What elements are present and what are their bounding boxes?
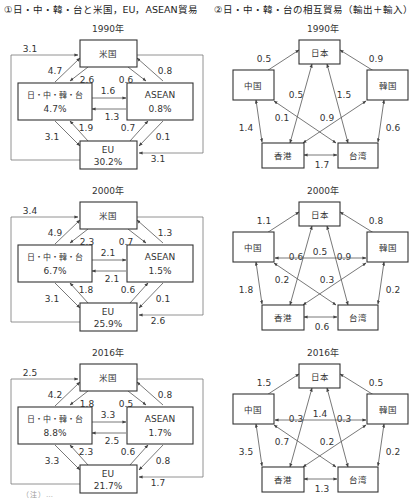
flow-label: 2.1 xyxy=(105,274,119,284)
link-label: 0.6 xyxy=(289,252,304,262)
flow-label: 2.5 xyxy=(23,368,37,378)
link-label: 0.6 xyxy=(315,322,330,332)
link-label: 1.8 xyxy=(239,285,254,295)
link-china-hongkong xyxy=(256,424,262,466)
flow-label: 1.8 xyxy=(79,285,94,295)
node-ejct-box xyxy=(18,407,92,444)
node-label-eu: EU xyxy=(102,145,114,155)
flow-label: 3.1 xyxy=(45,132,59,142)
node-label-japan: 日本 xyxy=(311,372,329,382)
link-korea-hongkong xyxy=(303,425,366,467)
node-label-taiwan: 台湾 xyxy=(349,151,367,161)
flow-label: 4.7 xyxy=(48,66,62,76)
node-label-us: 米国 xyxy=(99,49,117,59)
link-japan-taiwan xyxy=(327,226,348,305)
flow-label: 0.7 xyxy=(121,123,135,133)
link-label: 0.5 xyxy=(289,90,303,100)
node-label-taiwan: 台湾 xyxy=(349,313,367,323)
node-label-ejct: 日・中・韓・台 xyxy=(27,252,83,262)
node-share-asean: 1.5% xyxy=(149,266,172,276)
link-japan-hongkong xyxy=(290,64,312,143)
node-ejct-box xyxy=(18,245,92,282)
node-label-ejct: 日・中・韓・台 xyxy=(27,414,83,424)
node-label-china: 中国 xyxy=(244,243,262,253)
link-label: 0.2 xyxy=(386,285,400,295)
node-label-asean: ASEAN xyxy=(145,414,175,424)
link-korea-hongkong xyxy=(303,101,366,143)
node-label-eu: EU xyxy=(102,469,114,479)
link-china-hongkong xyxy=(256,262,262,304)
node-label-us: 米国 xyxy=(99,211,117,221)
node-label-us: 米国 xyxy=(99,373,117,383)
link-label: 0.2 xyxy=(320,437,334,447)
link-korea-hongkong xyxy=(303,263,366,305)
node-label-china: 中国 xyxy=(244,81,262,91)
flow-label: 4.9 xyxy=(48,228,63,238)
node-label-hongkong: 香港 xyxy=(274,313,292,323)
node-label-ejct: 日・中・韓・台 xyxy=(27,90,83,100)
flow-label: 0.6 xyxy=(121,285,136,295)
link-label: 3.5 xyxy=(239,447,253,457)
link-label: 1.5 xyxy=(337,90,351,100)
link-label: 0.3 xyxy=(337,414,351,424)
flow-label: 3.3 xyxy=(45,456,59,466)
flow-label: 3.3 xyxy=(101,410,115,420)
link-label: 0.3 xyxy=(320,275,334,285)
flow-label: 0.1 xyxy=(156,294,170,304)
link-japan-taiwan xyxy=(327,64,348,143)
node-label-eu: EU xyxy=(102,307,114,317)
flow-label: 0.8 xyxy=(156,456,171,466)
link-label: 0.9 xyxy=(369,54,384,64)
flow-label: 2.6 xyxy=(151,316,166,326)
link-label: 1.4 xyxy=(313,409,328,419)
node-label-japan: 日本 xyxy=(311,210,329,220)
link-label: 0.7 xyxy=(275,437,289,447)
link-label: 0.3 xyxy=(289,414,303,424)
link-label: 0.8 xyxy=(369,216,384,226)
link-korea-taiwan xyxy=(378,100,384,142)
link-label: 1.3 xyxy=(315,484,329,494)
link-korea-taiwan xyxy=(378,262,384,304)
flow-label: 3.1 xyxy=(23,44,37,54)
node-ejct-box xyxy=(18,83,92,120)
link-label: 0.9 xyxy=(320,113,335,123)
node-asean-box xyxy=(127,407,193,444)
link-label: 1.1 xyxy=(257,216,271,226)
flow-label: 0.1 xyxy=(156,132,170,142)
right-panel-year: 2000年 xyxy=(307,185,339,196)
node-label-korea: 韓国 xyxy=(379,243,397,253)
node-asean-box xyxy=(127,245,193,282)
link-label: 0.2 xyxy=(275,275,289,285)
flow-label: 0.6 xyxy=(121,447,136,457)
link-japan-hongkong xyxy=(290,226,312,305)
node-share-eu: 30.2% xyxy=(94,157,123,167)
link-china-hongkong xyxy=(256,100,262,142)
node-share-asean: 1.7% xyxy=(149,428,172,438)
link-japan-taiwan xyxy=(327,388,348,467)
link-label: 1.7 xyxy=(315,160,329,170)
node-label-hongkong: 香港 xyxy=(274,475,292,485)
flow-label: 3.1 xyxy=(151,154,165,164)
link-label: 0.9 xyxy=(337,252,352,262)
node-share-asean: 0.8% xyxy=(149,104,172,114)
node-share-ejct: 8.8% xyxy=(44,428,67,438)
right-panel-year: 1990年 xyxy=(307,23,339,34)
flow-label: 1.9 xyxy=(79,123,94,133)
node-label-taiwan: 台湾 xyxy=(349,475,367,485)
left-panel-year: 2016年 xyxy=(92,347,124,358)
link-label: 1.4 xyxy=(239,123,254,133)
node-asean-box xyxy=(127,83,193,120)
link-label: 0.5 xyxy=(313,247,327,257)
node-share-eu: 25.9% xyxy=(94,319,123,329)
flow-label: 2.5 xyxy=(105,436,119,446)
link-label: 0.6 xyxy=(386,123,401,133)
flow-label: 3.1 xyxy=(45,294,59,304)
node-label-korea: 韓国 xyxy=(379,405,397,415)
flow-label: 3.4 xyxy=(23,206,38,216)
node-label-korea: 韓国 xyxy=(379,81,397,91)
left-panel-year: 1990年 xyxy=(92,23,124,34)
node-label-hongkong: 香港 xyxy=(274,151,292,161)
node-share-ejct: 6.7% xyxy=(44,266,67,276)
link-label: 0.5 xyxy=(369,378,383,388)
node-share-ejct: 4.7% xyxy=(44,104,67,114)
